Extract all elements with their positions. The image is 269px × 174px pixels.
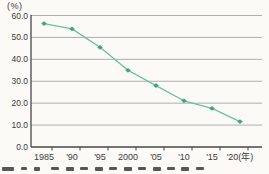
x-tick-label: 2000	[118, 152, 138, 162]
x-tick-label: 1985	[34, 152, 54, 162]
caption-fragment	[2, 167, 14, 171]
caption-fragment	[124, 167, 132, 171]
y-tick-label: 40.0	[11, 54, 28, 64]
caption-fragment	[51, 167, 59, 170]
data-line	[44, 24, 240, 122]
caption-fragment	[80, 167, 88, 170]
caption-fragment	[153, 167, 161, 171]
y-tick-label: 50.0	[11, 32, 28, 42]
y-tick-label: 0.0	[16, 142, 28, 152]
caption-fragment	[34, 167, 40, 171]
caption-fragment	[138, 167, 146, 170]
caption-fragment	[196, 167, 204, 170]
figure: (%) 0.010.020.030.040.050.060.01985'90'9…	[0, 0, 269, 174]
caption-fragment	[66, 167, 74, 171]
caption-fragment	[95, 167, 103, 171]
x-tick-label: '15	[206, 152, 218, 162]
data-point	[237, 119, 243, 124]
data-point	[209, 106, 215, 111]
x-tick-label: '20(年)	[227, 151, 254, 162]
caption-fragment	[21, 167, 27, 170]
cropped-caption	[2, 167, 262, 174]
x-tick-label: '90	[66, 152, 78, 162]
y-tick-label: 20.0	[11, 98, 28, 108]
y-tick-label: 30.0	[11, 76, 28, 86]
x-tick-label: '10	[178, 152, 190, 162]
y-tick-label: 60.0	[11, 11, 28, 21]
caption-fragment	[109, 167, 117, 170]
line-chart: 0.010.020.030.040.050.060.01985'90'95200…	[0, 0, 269, 166]
caption-fragment	[181, 167, 189, 171]
x-tick-label: '95	[94, 152, 106, 162]
x-tick-label: '05	[150, 152, 162, 162]
caption-fragment	[167, 167, 175, 170]
y-tick-label: 10.0	[11, 120, 28, 130]
data-point	[41, 21, 47, 26]
